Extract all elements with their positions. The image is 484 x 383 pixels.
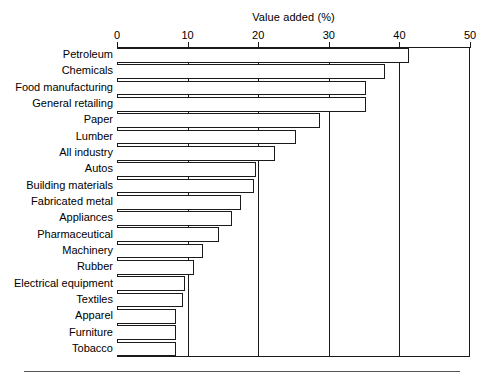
bar-building-materials [117, 179, 254, 194]
x-tick-label-20: 20 [252, 29, 264, 42]
bar-textiles [117, 293, 183, 308]
category-label-all-industry: All industry [59, 146, 113, 159]
bar-fabricated-metal [117, 195, 241, 210]
x-tick-label-10: 10 [181, 29, 193, 42]
bar-general-retailing [117, 97, 366, 112]
x-tick-label-30: 30 [323, 29, 335, 42]
bar-machinery [117, 244, 203, 259]
bar-food-manufacturing [117, 81, 366, 96]
bar-tobacco [117, 342, 176, 357]
bar-autos [117, 162, 256, 177]
x-tick-mark-50 [470, 42, 471, 48]
bar-chemicals [117, 64, 385, 79]
gridline-40 [399, 47, 400, 357]
bar-rubber [117, 260, 194, 275]
category-label-chemicals: Chemicals [62, 64, 113, 77]
category-label-petroleum: Petroleum [63, 48, 113, 61]
category-label-building-materials: Building materials [26, 179, 113, 192]
category-label-paper: Paper [84, 113, 113, 126]
category-label-textiles: Textiles [76, 293, 113, 306]
bar-furniture [117, 325, 176, 340]
bar-appliances [117, 211, 232, 226]
category-label-tobacco: Tobacco [72, 342, 113, 355]
chart-axis-title: Value added (%) [117, 11, 470, 24]
x-tick-label-50: 50 [464, 29, 476, 42]
x-tick-label-40: 40 [393, 29, 405, 42]
category-label-rubber: Rubber [77, 260, 113, 273]
category-label-autos: Autos [85, 162, 113, 175]
bar-pharmaceutical [117, 227, 219, 242]
category-label-appliances: Appliances [59, 211, 113, 224]
category-label-pharmaceutical: Pharmaceutical [37, 228, 113, 241]
category-label-fabricated-metal: Fabricated metal [31, 195, 113, 208]
category-label-food-manufacturing: Food manufacturing [15, 81, 113, 94]
bar-electrical-equipment [117, 276, 185, 291]
bar-apparel [117, 309, 176, 324]
bar-all-industry [117, 146, 275, 161]
category-label-lumber: Lumber [76, 130, 113, 143]
bottom-divider [24, 371, 460, 372]
bar-lumber [117, 130, 296, 145]
bar-petroleum [117, 48, 409, 63]
x-tick-label-0: 0 [114, 29, 120, 42]
bar-paper [117, 113, 320, 128]
category-label-machinery: Machinery [62, 244, 113, 257]
category-label-general-retailing: General retailing [32, 97, 113, 110]
category-label-furniture: Furniture [69, 326, 113, 339]
category-label-electrical-equipment: Electrical equipment [14, 277, 113, 290]
category-label-apparel: Apparel [75, 309, 113, 322]
bar-chart: Value added (%) 01020304050 PetroleumChe… [0, 0, 484, 383]
